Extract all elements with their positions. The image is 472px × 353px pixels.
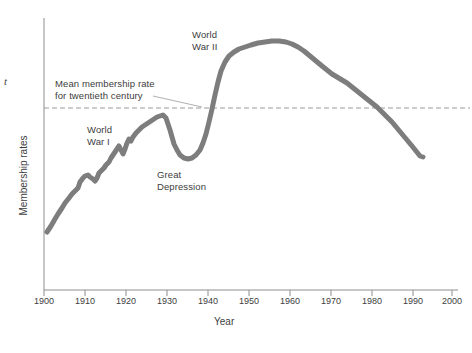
x-tick-label-1980: 1980 [355, 296, 389, 306]
annotation-mean-membership-rate: Mean membership rate for twentieth centu… [55, 78, 155, 102]
annotation-world-war-i: World War I [87, 124, 112, 148]
x-axis-title: Year [214, 316, 234, 327]
x-tick-label-1900: 1900 [27, 296, 61, 306]
annotation-world-war-ii: World War II [192, 29, 218, 53]
annotation-leader-line [153, 96, 202, 107]
y-axis-title: Membership rates [18, 121, 29, 231]
x-tick-label-1930: 1930 [150, 296, 184, 306]
marginal-text: t [4, 75, 7, 87]
x-tick-label-1990: 1990 [396, 296, 430, 306]
x-tick-label-1970: 1970 [314, 296, 348, 306]
x-tick-label-1920: 1920 [109, 296, 143, 306]
x-tick-label-1960: 1960 [273, 296, 307, 306]
annotation-great-depression: Great Depression [157, 169, 206, 193]
x-tick-label-1940: 1940 [191, 296, 225, 306]
membership-rates-chart: t Membership rates Year 1900 1910 1920 1… [0, 0, 472, 353]
x-tick-label-1910: 1910 [68, 296, 102, 306]
x-tick-label-1950: 1950 [232, 296, 266, 306]
x-tick-label-2000: 2000 [435, 296, 469, 306]
